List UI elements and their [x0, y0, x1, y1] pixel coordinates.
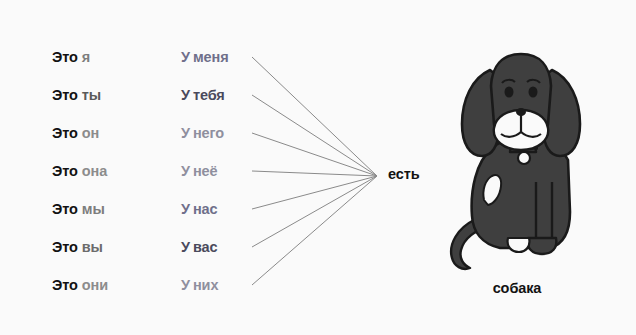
connector-line-1 [252, 57, 377, 176]
connector-line-4 [252, 171, 377, 176]
possessive-pronoun-column: Уменя Утебя Унего Унеё Унас Увас Уних [181, 38, 261, 304]
connector-line-2 [252, 95, 377, 176]
illustration-canvas: Этоя Этоты Этоон Этоона Этомы Этовы Этоо… [0, 0, 636, 335]
lead-letter-u: У [181, 277, 190, 293]
subject-row: Этоон [52, 114, 172, 152]
subject-row: Этоя [52, 38, 172, 76]
dog-illustration [432, 52, 602, 282]
subject-pronoun: она [82, 163, 107, 179]
lead-word-eto: Это [52, 49, 78, 65]
subject-pronoun-column: Этоя Этоты Этоон Этоона Этомы Этовы Этоо… [52, 38, 172, 304]
subject-pronoun: мы [82, 201, 105, 217]
subject-pronoun: он [82, 125, 99, 141]
lead-letter-u: У [181, 163, 190, 179]
lead-word-eto: Это [52, 201, 78, 217]
possessive-row: Уних [181, 266, 261, 304]
subject-pronoun: они [82, 277, 108, 293]
lead-word-eto: Это [52, 163, 78, 179]
possessive-row: Унас [181, 190, 261, 228]
lead-letter-u: У [181, 125, 190, 141]
connector-line-3 [252, 133, 377, 176]
lead-word-eto: Это [52, 87, 78, 103]
connector-line-5 [252, 176, 377, 209]
possessive-word: тебя [193, 87, 225, 103]
lead-word-eto: Это [52, 277, 78, 293]
subject-pronoun: ты [82, 87, 101, 103]
verb-label: есть [388, 166, 420, 182]
subject-row: Этовы [52, 228, 172, 266]
possessive-row: Утебя [181, 76, 261, 114]
possessive-row: Увас [181, 228, 261, 266]
dog-caption: собака [432, 280, 602, 296]
lead-letter-u: У [181, 49, 190, 65]
subject-row: Этомы [52, 190, 172, 228]
subject-pronoun: вы [82, 239, 103, 255]
possessive-row: Унеё [181, 152, 261, 190]
connector-line-7 [252, 176, 377, 285]
possessive-word: неё [193, 163, 218, 179]
possessive-row: Уменя [181, 38, 261, 76]
possessive-row: Унего [181, 114, 261, 152]
possessive-word: них [193, 277, 218, 293]
lead-letter-u: У [181, 239, 190, 255]
possessive-word: него [193, 125, 224, 141]
possessive-word: вас [193, 239, 218, 255]
subject-row: Этоони [52, 266, 172, 304]
dog-muzzle [494, 108, 548, 150]
subject-row: Этоона [52, 152, 172, 190]
subject-row: Этоты [52, 76, 172, 114]
possessive-word: нас [193, 201, 218, 217]
lead-word-eto: Это [52, 239, 78, 255]
lead-letter-u: У [181, 87, 190, 103]
lead-word-eto: Это [52, 125, 78, 141]
possessive-word: меня [193, 49, 229, 65]
subject-pronoun: я [82, 49, 90, 65]
connector-line-6 [252, 176, 377, 247]
lead-letter-u: У [181, 201, 190, 217]
dog-paw-white [508, 238, 530, 252]
